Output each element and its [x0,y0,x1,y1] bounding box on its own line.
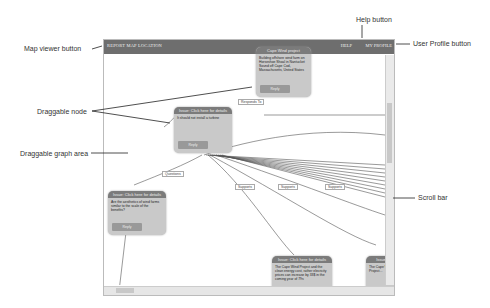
node-title: Issue: Click here for details [108,191,166,198]
draggable-node-issue-1[interactable]: Issue: Click here for details It should … [174,107,232,153]
horizontal-scrollbar[interactable] [104,286,394,295]
edge-label-supports: Supports [278,184,298,190]
edge-label-questions: Questions [162,171,184,177]
node-body: It should not install a turbine [174,114,232,122]
edge-label-responds-to: Responds To [238,99,264,105]
edge-label-supports: Supports [235,184,255,190]
node-title: Cape Wind project [256,47,311,54]
node-reply-button[interactable]: Reply [112,223,142,231]
node-title: Issue: Click here for details [272,256,332,263]
graph-area[interactable]: Cape Wind project Building offshore wind… [104,55,385,285]
draggable-node-issue-2[interactable]: Issue: Click here for details Are the ae… [108,191,166,235]
annotation-draggable-node: Draggable node [37,108,87,115]
user-profile-button[interactable]: MY PROFILE [366,43,392,48]
edge-label-supports: Supports [325,184,345,190]
node-body: Building offshore wind farm on Horseshoe… [256,54,311,74]
node-reply-button[interactable]: Reply [178,141,208,149]
help-button[interactable]: HELP [341,43,352,48]
annotation-draggable-area: Draggable graph area [20,150,88,157]
top-bar: REPORT MAP LOCATION HELP MY PROFILE [104,40,394,54]
graph-edges [104,55,385,285]
node-reply-button[interactable]: Reply [260,85,290,93]
vertical-scrollbar[interactable] [385,55,394,285]
node-body: Are the aesthetics of wind farms similar… [108,198,166,214]
node-title: Issue: Click here for details [174,107,232,114]
annotation-map-viewer: Map viewer button [24,45,81,52]
map-viewer-button[interactable]: REPORT MAP LOCATION [107,43,162,48]
scroll-thumb[interactable] [116,288,134,293]
annotation-scroll-bar: Scroll bar [418,194,448,201]
draggable-node-cape-wind[interactable]: Cape Wind project Building offshore wind… [256,47,311,97]
app-window: REPORT MAP LOCATION HELP MY PROFILE [103,39,395,296]
node-body: The Cape Wind Project and the clean ener… [272,263,332,283]
annotation-help: Help button [356,16,392,23]
annotation-user-profile: User Profile button [413,40,471,47]
scroll-thumb[interactable] [387,103,392,163]
